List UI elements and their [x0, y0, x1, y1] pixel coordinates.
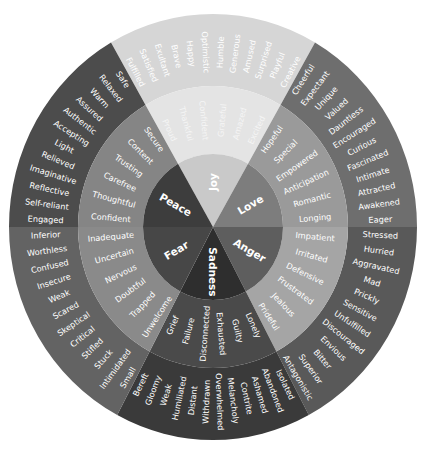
outer-label: Optimistic [200, 31, 212, 73]
outer-label: Eager [368, 214, 393, 225]
outer-label: Humble [215, 36, 226, 68]
outer-label: Engaged [27, 214, 63, 226]
core-label-sadness: Sadness [207, 247, 219, 296]
wheel-root: JoyProudThankfulConfidentGratefulAmazedE… [9, 14, 417, 440]
outer-label: Stressed [362, 229, 398, 241]
outer-label: Inferior [31, 229, 62, 240]
outer-label: Withdrawn [200, 380, 212, 424]
feelings-wheel: JoyProudThankfulConfidentGratefulAmazedE… [0, 0, 430, 451]
core-label-joy: Joy [207, 173, 219, 192]
